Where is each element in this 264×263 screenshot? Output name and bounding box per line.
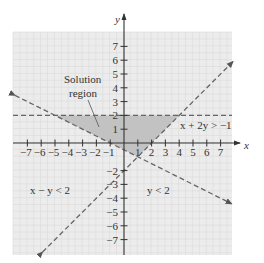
inequality-label-x-minus-y: x − y < 2	[30, 184, 70, 196]
x-tick-label: 3	[163, 146, 169, 158]
x-tick-label: 7	[218, 146, 224, 158]
y-tick-label: −2	[106, 165, 118, 177]
y-tick-label: −7	[106, 234, 118, 246]
y-tick-label: 2	[113, 109, 119, 121]
inequality-label-x-plus-2y: x + 2y > −1	[180, 119, 232, 131]
y-axis-label: y	[114, 13, 120, 25]
y-tick-label: 7	[113, 40, 119, 52]
y-tick-label: −4	[106, 192, 118, 204]
x-tick-label: 2	[149, 146, 155, 158]
inequality-graph: −7−6−5−4−3−2−11234567−7−6−5−4−3−21234567…	[0, 0, 264, 263]
x-tick-label: 4	[176, 146, 182, 158]
y-tick-label: −3	[106, 178, 118, 190]
solution-region-label-line2: region	[69, 87, 98, 99]
x-tick-label: 1	[135, 146, 141, 158]
x-tick-label: −2	[89, 146, 101, 158]
solution-region-label-line1: Solution	[64, 73, 102, 85]
x-tick-label: 5	[190, 146, 196, 158]
y-tick-label: 5	[113, 68, 119, 80]
y-tick-label: 4	[113, 82, 119, 94]
x-tick-label: −6	[34, 146, 46, 158]
y-tick-label: −5	[106, 206, 118, 218]
y-tick-label: 1	[113, 123, 119, 135]
y-tick-label: −6	[106, 220, 118, 232]
x-tick-label: −1	[103, 146, 115, 158]
x-tick-label: −5	[48, 146, 60, 158]
inequality-label-y-lt-2: y < 2	[147, 184, 170, 196]
x-tick-label: −4	[61, 146, 73, 158]
x-tick-label: −3	[75, 146, 87, 158]
x-axis-label: x	[243, 139, 249, 151]
y-tick-label: 6	[113, 54, 119, 66]
y-tick-label: 3	[113, 96, 119, 108]
x-tick-label: −7	[20, 146, 32, 158]
x-tick-label: 6	[204, 146, 210, 158]
